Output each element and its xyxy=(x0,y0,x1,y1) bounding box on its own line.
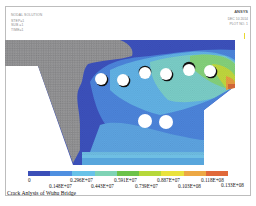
legend-label: 0 xyxy=(28,177,31,183)
plot-number: PLOT NO. 1 xyxy=(228,22,248,26)
legend-label: 0.148E+07 xyxy=(49,183,72,189)
legend-swatch xyxy=(95,171,117,176)
legend-swatch xyxy=(161,171,183,176)
header-line: NODAL SOLUTION xyxy=(11,13,42,17)
plot-info: ANSYS DEC 10 2014 PLOT NO. 1 xyxy=(228,10,248,26)
legend-swatch xyxy=(206,171,228,176)
triad-axis-icon xyxy=(244,33,245,39)
legend-swatch xyxy=(184,171,206,176)
legend-swatch xyxy=(72,171,94,176)
legend-label: 0.739E+07 xyxy=(135,183,158,189)
plot-caption: Crack Anlysis of Wuhu Bridge xyxy=(7,190,76,196)
legend-swatch xyxy=(50,171,72,176)
header-line: TIME=1 xyxy=(11,28,42,32)
color-legend xyxy=(28,171,228,176)
legend-swatch xyxy=(117,171,139,176)
solution-info: NODAL SOLUTION STEP=1 SUB =1 TIME=1 xyxy=(11,13,42,32)
legend-label: 0.591E+07 xyxy=(114,177,137,183)
legend-label: 0.133E+08 xyxy=(221,182,244,188)
hole xyxy=(138,114,152,128)
legend-label: 0.443E+07 xyxy=(91,183,114,189)
legend-label: 0.296E+07 xyxy=(70,177,93,183)
hole xyxy=(183,62,196,76)
legend-swatch xyxy=(28,171,50,176)
hole xyxy=(159,115,173,129)
legend-swatch xyxy=(139,171,161,176)
legend-label: 0.103E+08 xyxy=(178,183,201,189)
hole xyxy=(139,66,152,79)
legend-label: 0.887E+07 xyxy=(157,177,180,183)
